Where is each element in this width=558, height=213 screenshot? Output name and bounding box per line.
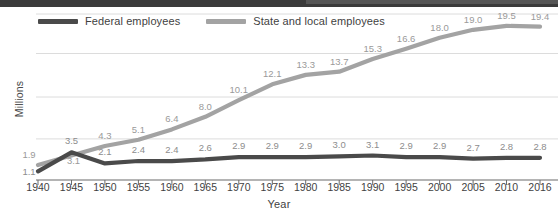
- data-label-state-local: 18.0: [430, 22, 449, 33]
- x-tick-label: 1980: [294, 181, 317, 193]
- data-label-federal: 3.1: [366, 139, 379, 150]
- data-label-state-local: 8.0: [199, 101, 212, 112]
- data-label-federal: 2.4: [165, 144, 178, 155]
- data-label-state-local: 13.7: [330, 56, 349, 67]
- x-tick-label: 1950: [93, 181, 116, 193]
- x-tick-label: 1970: [227, 181, 250, 193]
- x-axis-tick-labels: 1940194519501955196019651970197519801985…: [0, 181, 558, 196]
- x-tick-label: 1945: [60, 181, 83, 193]
- x-tick-label: 1985: [328, 181, 351, 193]
- data-label-federal: 2.7: [466, 142, 479, 153]
- data-label-state-local: 15.3: [363, 43, 382, 54]
- data-label-federal: 2.9: [433, 140, 446, 151]
- data-label-state-local: 4.3: [98, 130, 111, 141]
- x-tick-label: 1940: [26, 181, 49, 193]
- data-label-state-local: 19.0: [464, 14, 483, 25]
- data-label-state-local: 1.9: [22, 149, 35, 160]
- data-label-state-local: 19.4: [531, 11, 550, 22]
- data-label-federal: 2.9: [232, 140, 245, 151]
- x-tick-label: 1965: [194, 181, 217, 193]
- x-tick-label: 2000: [428, 181, 451, 193]
- data-label-state-local: 5.1: [132, 124, 145, 135]
- data-label-federal: 1.1: [22, 166, 35, 177]
- x-tick-label: 1960: [160, 181, 183, 193]
- x-tick-label: 1995: [394, 181, 417, 193]
- x-tick-label: 2005: [461, 181, 484, 193]
- data-label-federal: 2.6: [199, 142, 212, 153]
- y-axis-title: Millions: [13, 64, 25, 134]
- data-label-federal: 3.5: [65, 135, 78, 146]
- data-label-state-local: 16.6: [397, 33, 416, 44]
- x-tick-label: 1975: [261, 181, 284, 193]
- data-label-state-local: 12.1: [263, 68, 282, 79]
- chart-container: Federal employees State and local employ…: [0, 0, 558, 213]
- data-label-state-local: 13.3: [296, 59, 315, 70]
- data-label-federal: 2.9: [399, 140, 412, 151]
- x-axis-title: Year: [0, 198, 558, 210]
- data-label-federal: 2.4: [132, 144, 145, 155]
- data-label-state-local: 19.5: [497, 10, 516, 21]
- x-tick-label: 1955: [127, 181, 150, 193]
- data-label-federal: 2.8: [500, 141, 513, 152]
- data-label-federal: 2.9: [299, 140, 312, 151]
- data-label-federal: 2.8: [533, 141, 546, 152]
- data-label-federal: 2.9: [266, 140, 279, 151]
- data-label-state-local: 3.1: [67, 155, 80, 166]
- data-label-state-local: 10.1: [230, 84, 249, 95]
- series-line-state-local: [38, 26, 540, 165]
- x-tick-label: 2016: [528, 181, 551, 193]
- x-tick-label: 2010: [495, 181, 518, 193]
- data-label-state-local: 6.4: [165, 113, 178, 124]
- series-line-federal: [38, 152, 540, 171]
- x-tick-label: 1990: [361, 181, 384, 193]
- data-label-federal: 2.1: [98, 146, 111, 157]
- data-label-federal: 3.0: [333, 139, 346, 150]
